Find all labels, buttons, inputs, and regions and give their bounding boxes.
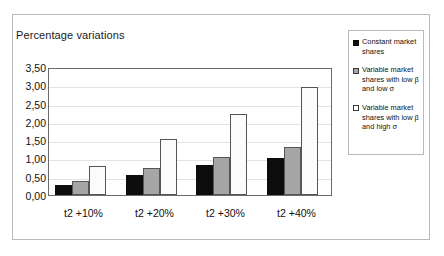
- legend-swatch-icon: [353, 105, 359, 111]
- legend-item-label: Variable market shares with low β and hi…: [362, 103, 420, 132]
- legend-swatch-icon: [353, 68, 359, 74]
- bar-groups: [49, 69, 331, 195]
- bar-group: [261, 69, 332, 195]
- y-tick-label: 3,00: [26, 80, 46, 92]
- y-tick-label: 3,50: [26, 62, 46, 74]
- plot-area: [48, 68, 332, 196]
- bar: [213, 157, 230, 195]
- bar: [284, 147, 301, 195]
- x-tick-label: t2 +40%: [261, 200, 332, 224]
- legend-item-label: Variable market shares with low β and lo…: [362, 65, 420, 94]
- x-axis-category-labels: t2 +10%t2 +20%t2 +30%t2 +40%: [48, 200, 332, 224]
- y-tick-label: 2,50: [26, 99, 46, 111]
- bar: [230, 114, 247, 195]
- y-tick-label: 2,00: [26, 117, 46, 129]
- y-tick-label: 1,00: [26, 153, 46, 165]
- x-tick-label: t2 +20%: [119, 200, 190, 224]
- bar: [143, 168, 160, 195]
- legend-swatch-icon: [353, 40, 359, 46]
- bar: [301, 87, 318, 195]
- bar: [55, 185, 72, 195]
- legend-item: Constant market shares: [353, 37, 420, 56]
- bar-group: [120, 69, 191, 195]
- bar: [160, 139, 177, 195]
- legend-item: Variable market shares with low β and hi…: [353, 103, 420, 132]
- y-tick-label: 0,50: [26, 172, 46, 184]
- chart-figure: Percentage variations 3,503,002,502,001,…: [0, 0, 444, 256]
- x-tick-label: t2 +10%: [48, 200, 119, 224]
- y-axis-tick-labels: 3,503,002,502,001,501,000,500,00: [10, 60, 46, 204]
- bar-group: [49, 69, 120, 195]
- legend-item: Variable market shares with low β and lo…: [353, 65, 420, 94]
- bar: [267, 158, 284, 195]
- bar: [196, 165, 213, 195]
- y-tick-label: 1,50: [26, 135, 46, 147]
- bar-group: [190, 69, 261, 195]
- bar: [89, 166, 106, 195]
- chart-title: Percentage variations: [16, 29, 125, 41]
- x-tick-label: t2 +30%: [190, 200, 261, 224]
- bar: [72, 181, 89, 195]
- chart-legend: Constant market sharesVariable market sh…: [348, 30, 424, 155]
- legend-item-label: Constant market shares: [362, 37, 420, 56]
- y-tick-label: 0,00: [26, 190, 46, 202]
- bar: [126, 175, 143, 195]
